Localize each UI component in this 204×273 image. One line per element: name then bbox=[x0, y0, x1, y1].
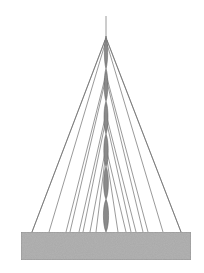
guy-wire-left-outer bbox=[32, 38, 106, 232]
mast-segment bbox=[104, 134, 108, 167]
guy-wire-left bbox=[79, 118, 105, 232]
guy-wire-right bbox=[107, 78, 148, 232]
mast-segment bbox=[104, 101, 108, 134]
mast-segment bbox=[104, 36, 107, 69]
guy-wire-right bbox=[107, 44, 163, 232]
guy-wire-right-outer bbox=[106, 38, 181, 232]
mast-segment bbox=[103, 199, 108, 232]
guy-wire-right bbox=[107, 118, 136, 232]
mast bbox=[103, 16, 108, 232]
mast-segment bbox=[104, 69, 108, 102]
base-slab bbox=[21, 232, 191, 260]
mast-segment bbox=[104, 167, 109, 200]
guy-wire-left bbox=[83, 124, 105, 232]
mast-diagram bbox=[0, 0, 204, 273]
guy-wire-left bbox=[49, 44, 105, 232]
guy-wire-right bbox=[107, 124, 131, 232]
diagram-canvas bbox=[0, 0, 204, 273]
